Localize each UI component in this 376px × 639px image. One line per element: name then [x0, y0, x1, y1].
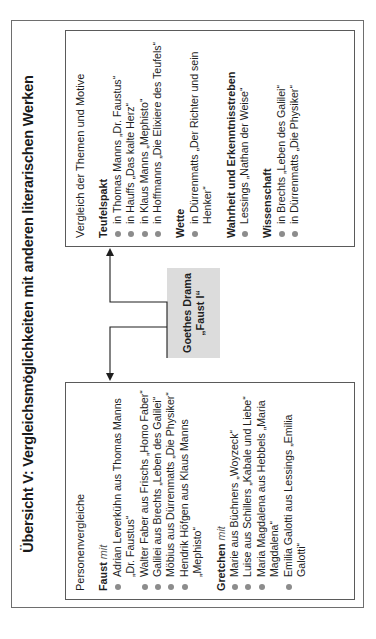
- center-line-1: Goethes Drama: [181, 273, 194, 353]
- group-faust: Faust mit Adrian Leverkühn aus Thomas Ma…: [97, 389, 204, 591]
- theme-comparison-box: Vergleich der Themen und Motive Teufelsp…: [65, 30, 355, 247]
- list-item: Lessings „Nathan der Weise“: [238, 37, 251, 238]
- group-title-suffix: mit: [215, 526, 227, 540]
- list-item-text: Marie aus Büchners „Woyzeck“: [228, 430, 240, 577]
- list: in Dürrenmatts „Der Richter und sein Hen…: [188, 37, 215, 238]
- bullet-icon: [155, 584, 161, 590]
- list-item-text: in Hauffs „Das kalte Herz“: [124, 103, 136, 224]
- rotated-page: Übersicht V: Vergleichsmöglichkeiten mit…: [0, 0, 376, 639]
- list-item: Hendrik Höfgen aus Klaus Manns „Mephisto…: [178, 389, 205, 591]
- list: in Thomas Manns „Dr. Faustus“ in Hauffs …: [111, 37, 165, 238]
- bullet-icon: [115, 584, 121, 590]
- group-title: Teufelspakt: [97, 37, 110, 238]
- list-item-text: Emilia Galotti aus Lessings „Emilia Galo…: [282, 415, 307, 578]
- group-wahrheit: Wahrheit und Erkenntnisstreben Lessings …: [225, 37, 252, 238]
- bullet-icon: [142, 231, 148, 237]
- group-gretchen: Gretchen mit Marie aus Büchners „Woyzeck…: [215, 389, 309, 591]
- bullet-icon: [192, 231, 198, 237]
- bullet-icon: [232, 584, 238, 590]
- bullet-icon: [286, 584, 292, 590]
- group-teufelspakt: Teufelspakt in Thomas Manns „Dr. Faustus…: [97, 37, 164, 238]
- bullet-icon: [142, 584, 148, 590]
- list: Lessings „Nathan der Weise“: [238, 37, 251, 238]
- list-item: Maria Magdalena aus Hebbels „Maria Magda…: [255, 389, 282, 591]
- group-title: Wissenschaft: [261, 37, 274, 238]
- group-title-suffix: mit: [97, 545, 109, 559]
- box-heading: Vergleich der Themen und Motive: [74, 37, 87, 238]
- bullet-icon: [182, 584, 188, 590]
- person-comparison-box: Personenvergleiche Faust mit Adrian Leve…: [65, 382, 355, 600]
- list-item: in Hoffmanns „Die Elixiere des Teufels“: [151, 37, 164, 238]
- group-wissenschaft: Wissenschaft in Brechts „Leben des Galil…: [261, 37, 301, 238]
- bullet-icon: [242, 231, 248, 237]
- group-title-text: Gretchen: [215, 544, 227, 591]
- group-title: Faust mit: [97, 389, 110, 591]
- list-item-text: Lessings „Nathan der Weise“: [238, 88, 250, 224]
- group-title: Wette: [174, 37, 187, 238]
- list-item: in Dürrenmatts „Der Richter und sein Hen…: [188, 37, 215, 238]
- list: Marie aus Büchners „Woyzeck“ Luise aus S…: [228, 389, 308, 591]
- bullet-icon: [279, 231, 285, 237]
- list-item: in Dürrenmatts „Die Physiker“: [288, 37, 301, 238]
- bullet-icon: [155, 231, 161, 237]
- bullet-icon: [168, 584, 174, 590]
- list-item-text: in Hoffmanns „Die Elixiere des Teufels“: [151, 42, 163, 224]
- bullet-icon: [128, 231, 134, 237]
- group-title: Gretchen mit: [215, 389, 228, 591]
- list-item: Luise aus Schillers „Kabale und Liebe“: [241, 389, 254, 591]
- list-item-text: Walter Faber aus Frischs „Homo Faber“: [138, 390, 150, 577]
- list-item: in Brechts „Leben des Galilei“: [275, 37, 288, 238]
- bullet-icon: [115, 231, 121, 237]
- list-item-text: Maria Magdalena aus Hebbels „Maria Magda…: [255, 400, 280, 577]
- list-item-text: Hendrik Höfgen aus Klaus Manns „Mephisto…: [178, 419, 203, 577]
- page-title: Übersicht V: Vergleichsmöglichkeiten mit…: [20, 20, 36, 608]
- bullet-icon: [245, 584, 251, 590]
- group-title-text: Faust: [97, 562, 109, 591]
- list-item: in Klaus Manns „Mephisto“: [138, 37, 151, 238]
- center-line-2: „Faust I“: [194, 290, 207, 336]
- box-heading: Personenvergleiche: [74, 389, 87, 591]
- list-item-text: in Dürrenmatts „Der Richter und sein Hen…: [188, 51, 213, 224]
- list-item-text: Möbius aus Dürrenmatts „Die Physiker“: [164, 392, 176, 577]
- center-node-faust: Goethes Drama „Faust I“: [167, 268, 220, 358]
- bullet-icon: [259, 584, 265, 590]
- list-item-text: in Brechts „Leben des Galilei“: [275, 85, 287, 224]
- list-item: Emilia Galotti aus Lessings „Emilia Galo…: [282, 389, 309, 591]
- list-item-text: Adrian Leverkühn aus Thomas Manns „Dr. F…: [111, 398, 136, 577]
- list-item-text: Luise aus Schillers „Kabale und Liebe“: [241, 396, 253, 577]
- list: Adrian Leverkühn aus Thomas Manns „Dr. F…: [111, 389, 205, 591]
- list-item-text: in Dürrenmatts „Die Physiker“: [288, 85, 300, 224]
- list-item-text: in Thomas Manns „Dr. Faustus“: [111, 76, 123, 224]
- bullet-icon: [292, 231, 298, 237]
- list-item-text: in Klaus Manns „Mephisto“: [138, 99, 150, 224]
- list-item: in Hauffs „Das kalte Herz“: [124, 37, 137, 238]
- list-item: Marie aus Büchners „Woyzeck“: [228, 389, 241, 591]
- list-item: Walter Faber aus Frischs „Homo Faber“: [138, 389, 151, 591]
- list-item: Möbius aus Dürrenmatts „Die Physiker“: [164, 389, 177, 591]
- list-item: Adrian Leverkühn aus Thomas Manns „Dr. F…: [111, 389, 138, 591]
- list-item: in Thomas Manns „Dr. Faustus“: [111, 37, 124, 238]
- list-item-text: Galilei aus Brechts „Leben des Galilei“: [151, 397, 163, 577]
- list: in Brechts „Leben des Galilei“ in Dürren…: [275, 37, 302, 238]
- list-item: Galilei aus Brechts „Leben des Galilei“: [151, 389, 164, 591]
- group-title: Wahrheit und Erkenntnisstreben: [225, 37, 238, 238]
- group-wette: Wette in Dürrenmatts „Der Richter und se…: [174, 37, 214, 238]
